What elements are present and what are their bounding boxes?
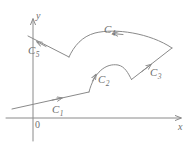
curve-diagram-figure: C1 C2 C3 C4 C5 x y 0 xyxy=(0,0,191,148)
curve-c4-path xyxy=(69,31,172,57)
curve-label-c3: C3 xyxy=(150,67,161,78)
curve-c2-path xyxy=(89,65,132,92)
y-axis-label: y xyxy=(36,11,40,21)
origin-label: 0 xyxy=(35,120,40,130)
curve-label-c4: C4 xyxy=(104,24,115,35)
curve-label-c5: C5 xyxy=(28,45,39,56)
diagram-canvas xyxy=(0,0,191,148)
curve-label-c1: C1 xyxy=(52,104,63,115)
curve-c1-arrow xyxy=(52,98,62,100)
curve-label-c2: C2 xyxy=(98,74,109,85)
curve-c2-arrow xyxy=(93,75,97,82)
curve-c1-path xyxy=(12,92,89,109)
x-axis-label: x xyxy=(178,122,182,132)
